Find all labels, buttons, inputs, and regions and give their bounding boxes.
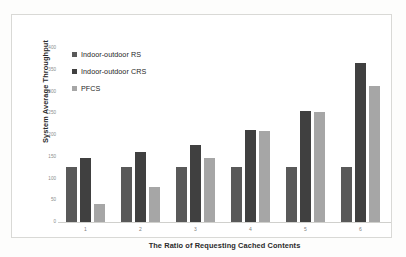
x-axis-tick-label: 5 — [286, 227, 326, 232]
bar[interactable] — [245, 130, 256, 222]
bar[interactable] — [121, 167, 132, 222]
bar[interactable] — [314, 112, 325, 222]
x-axis-line — [58, 222, 391, 223]
y-axis-tick-label: 300 — [34, 89, 56, 94]
bar[interactable] — [286, 167, 297, 222]
bar-group — [223, 34, 278, 222]
y-axis-tick-label: 100 — [34, 176, 56, 181]
x-axis-tick-label: 1 — [66, 227, 106, 232]
chart-frame: System Average Throughput 05010015020025… — [11, 14, 392, 238]
bar[interactable] — [369, 86, 380, 222]
y-axis-tick-label: 250 — [34, 111, 56, 116]
y-axis-tick-label: 150 — [34, 154, 56, 159]
bar[interactable] — [300, 111, 311, 222]
x-axis-title: The Ratio of Requesting Cached Contents — [58, 241, 391, 250]
bar[interactable] — [80, 158, 91, 222]
bar[interactable] — [355, 63, 366, 222]
x-axis-tick-label: 2 — [121, 227, 161, 232]
plot-area — [58, 34, 388, 222]
bar-group — [168, 34, 223, 222]
bar[interactable] — [94, 204, 105, 222]
bar-group — [113, 34, 168, 222]
bar[interactable] — [135, 152, 146, 222]
bar[interactable] — [66, 167, 77, 222]
bar[interactable] — [259, 131, 270, 222]
bar-group — [333, 34, 388, 222]
bar[interactable] — [176, 167, 187, 222]
x-axis-tick-label: 6 — [341, 227, 381, 232]
y-axis-tick-label: 50 — [34, 198, 56, 203]
y-axis-tick-label: 400 — [34, 46, 56, 51]
y-axis-tick-labels: 050100150200250300350400 — [26, 15, 56, 257]
chart-figure: System Average Throughput 05010015020025… — [0, 0, 406, 257]
bar[interactable] — [190, 145, 201, 222]
y-axis-tick-label: 200 — [34, 133, 56, 138]
y-axis-tick-label: 0 — [34, 220, 56, 225]
bar[interactable] — [341, 167, 352, 222]
bar[interactable] — [149, 187, 160, 222]
bar[interactable] — [204, 158, 215, 222]
y-axis-tick-label: 350 — [34, 67, 56, 72]
bar[interactable] — [231, 167, 242, 222]
bar-group — [278, 34, 333, 222]
bar-group — [58, 34, 113, 222]
x-axis-tick-label: 3 — [176, 227, 216, 232]
x-axis-tick-label: 4 — [231, 227, 271, 232]
